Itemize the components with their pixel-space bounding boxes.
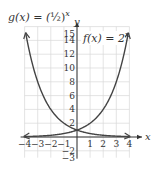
- x-tick-label: 3: [113, 139, 119, 149]
- g-curve-label: g(x) = (½)x: [8, 9, 70, 24]
- f-label-exponent: x: [125, 30, 130, 39]
- y-tick-label: 12: [64, 49, 75, 59]
- g-label-exponent: x: [65, 9, 70, 18]
- x-axis-label: x: [145, 131, 151, 142]
- y-tick-label: 4: [69, 104, 75, 114]
- f-curve-label: f(x) = 2x: [82, 30, 130, 45]
- f-label-prefix: f(x) = 2: [82, 32, 125, 45]
- y-tick-label: −2: [62, 146, 75, 156]
- x-tick-label: 2: [100, 139, 106, 149]
- exponential-chart: −4−3−2−11234−3−2246810121415 x y g(x) = …: [0, 0, 156, 174]
- f-curve: [25, 34, 128, 137]
- y-tick-label: 10: [64, 63, 76, 73]
- y-tick-label: 8: [69, 77, 75, 87]
- g-label-prefix: g(x) = (: [8, 11, 51, 24]
- y-axis-label: y: [73, 16, 80, 27]
- x-tick-label: −2: [44, 139, 57, 149]
- x-axis-arrow-icon: [137, 135, 142, 139]
- x-tick-label: 1: [87, 139, 93, 149]
- x-tick-label: −3: [31, 139, 45, 149]
- g-label-half: ½: [50, 11, 61, 24]
- y-tick-label: 15: [64, 29, 76, 39]
- y-tick-label: 6: [69, 91, 75, 101]
- x-tick-label: 4: [127, 139, 133, 149]
- x-tick-label: −4: [18, 139, 32, 149]
